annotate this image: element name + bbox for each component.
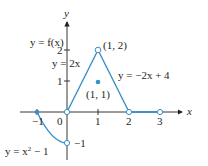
closed-point-neg1-0 bbox=[35, 110, 40, 115]
x-axis-label: x bbox=[186, 105, 192, 117]
tick-label-y-neg1: −1 bbox=[74, 137, 86, 149]
segment-label-2x: y = 2x bbox=[52, 57, 81, 69]
tick-label-y-1: 1 bbox=[57, 75, 63, 87]
point-label-1-2: (1, 2) bbox=[103, 39, 127, 52]
open-point-2-0 bbox=[126, 109, 131, 114]
point-label-1-1: (1, 1) bbox=[86, 88, 110, 101]
y-axis-label: y bbox=[63, 7, 69, 19]
tick-label-x-0: 0 bbox=[57, 115, 63, 127]
open-point-0-neg1 bbox=[64, 140, 69, 145]
piecewise-function-graph: y x y = f(x) −1 0 1 2 3 2 1 −1 y = 2x y … bbox=[0, 0, 208, 166]
segment-label-parabola: y = x2 − 1 bbox=[5, 145, 48, 157]
tick-label-y-2: 2 bbox=[57, 44, 63, 56]
open-point-3-0 bbox=[157, 109, 162, 114]
closed-point-1-1 bbox=[96, 80, 101, 85]
tick-label-x-neg1: −1 bbox=[32, 115, 44, 127]
tick-label-x-1: 1 bbox=[95, 115, 101, 127]
segment-label-neg2x4: y = −2x + 4 bbox=[118, 69, 170, 81]
line-neg2x4-segment bbox=[98, 50, 129, 112]
tick-label-x-3: 3 bbox=[157, 115, 163, 127]
open-point-0-0 bbox=[64, 109, 69, 114]
open-point-1-2 bbox=[95, 47, 101, 53]
tick-label-x-2: 2 bbox=[126, 115, 132, 127]
